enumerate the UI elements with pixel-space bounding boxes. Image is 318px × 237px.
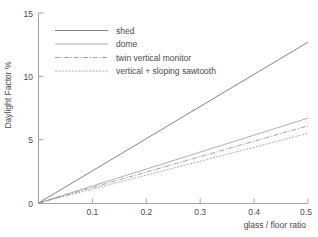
y-tick-label-10: 10 (24, 72, 34, 82)
x-tick-label-0-4: 0.4 (248, 207, 260, 217)
legend-label-twin-vertical-monitor: twin vertical monitor (116, 53, 191, 63)
x-tick-label-0-1: 0.1 (86, 207, 98, 217)
y-axis-ticks (39, 13, 44, 203)
series-line-vertical-sloping-sawtooth (39, 133, 309, 203)
series-line-twin-vertical-monitor (39, 126, 309, 203)
x-tick-label-0-3: 0.3 (194, 207, 206, 217)
x-axis-ticks (92, 199, 308, 204)
x-tick-label-0-5: 0.5 (300, 207, 312, 217)
x-axis-title: glass / floor ratio (244, 220, 307, 230)
y-tick-label-0: 0 (28, 199, 33, 209)
y-axis-title: Daylight Factor % (3, 61, 13, 129)
y-tick-label-5: 5 (28, 135, 33, 145)
daylight-factor-chart: 15 10 5 0 0.1 0.2 0.3 0.4 0.5 glass / fl… (0, 0, 318, 237)
y-tick-label-15: 15 (24, 9, 34, 19)
x-tick-label-0-2: 0.2 (140, 207, 152, 217)
legend-label-dome: dome (116, 39, 138, 49)
legend-label-shed: shed (116, 26, 135, 36)
legend: shed dome twin vertical monitor vertical… (55, 26, 216, 77)
series-line-dome (39, 118, 309, 203)
legend-label-vertical-sloping-sawtooth: vertical + sloping sawtooth (116, 66, 216, 76)
chart-canvas: 15 10 5 0 0.1 0.2 0.3 0.4 0.5 glass / fl… (0, 0, 318, 237)
